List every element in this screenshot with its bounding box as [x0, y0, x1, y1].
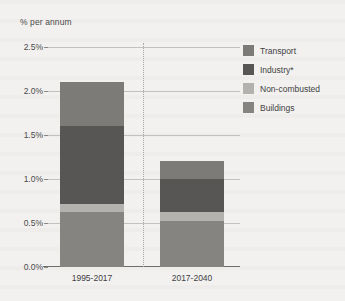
- legend-item-transport[interactable]: Transport: [243, 41, 320, 60]
- legend-swatch-icon: [243, 64, 254, 75]
- y-tick-mark: [44, 135, 48, 136]
- legend-label: Buildings: [260, 103, 295, 113]
- legend-item-industry-[interactable]: Industry*: [243, 60, 320, 79]
- x-axis-label: 1995-2017: [60, 273, 124, 283]
- bar-2017-2040[interactable]: 2017-2040: [160, 161, 224, 267]
- y-tick-mark: [44, 179, 48, 180]
- bar-segment-transport[interactable]: [60, 82, 124, 126]
- legend-swatch-icon: [243, 102, 254, 113]
- y-tick-mark: [44, 47, 48, 48]
- bar-segment-buildings[interactable]: [160, 221, 224, 267]
- legend-swatch-icon: [243, 83, 254, 94]
- stacked-bar-chart: % per annum 0.0%0.5%1.0%1.5%2.0%2.5% 199…: [0, 0, 345, 301]
- x-axis-label: 2017-2040: [160, 273, 224, 283]
- legend-label: Transport: [260, 46, 296, 56]
- bar-1995-2017[interactable]: 1995-2017: [60, 82, 124, 267]
- y-tick-label: 1.5%: [24, 130, 43, 140]
- y-tick-mark: [44, 91, 48, 92]
- bar-segment-buildings[interactable]: [60, 212, 124, 267]
- plot-area: 0.0%0.5%1.0%1.5%2.0%2.5% 1995-20172017-2…: [48, 47, 240, 267]
- y-tick-label: 2.0%: [24, 86, 43, 96]
- y-tick-mark: [44, 223, 48, 224]
- bar-segment-industry-[interactable]: [60, 126, 124, 203]
- legend-label: Non-combusted: [260, 84, 320, 94]
- gridline: [48, 47, 240, 48]
- bar-segment-non-combusted[interactable]: [60, 204, 124, 213]
- y-tick-label: 1.0%: [24, 174, 43, 184]
- y-axis-title: % per annum: [20, 17, 72, 27]
- legend-item-non-combusted[interactable]: Non-combusted: [243, 79, 320, 98]
- bar-segment-transport[interactable]: [160, 161, 224, 179]
- y-tick-label: 0.5%: [24, 218, 43, 228]
- y-tick-mark: [44, 267, 48, 268]
- bar-segment-industry-[interactable]: [160, 179, 224, 212]
- y-tick-label: 2.5%: [24, 42, 43, 52]
- category-divider: [143, 43, 144, 267]
- legend-item-buildings[interactable]: Buildings: [243, 98, 320, 117]
- legend-swatch-icon: [243, 45, 254, 56]
- chart-legend: TransportIndustry*Non-combustedBuildings: [243, 41, 320, 117]
- bar-segment-non-combusted[interactable]: [160, 212, 224, 221]
- y-tick-label: 0.0%: [24, 262, 43, 272]
- legend-label: Industry*: [260, 65, 294, 75]
